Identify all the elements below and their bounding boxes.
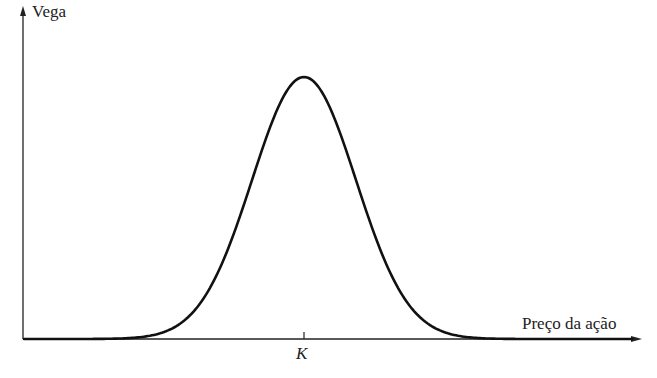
vega-curve [24, 77, 632, 339]
k-tick-label: K [296, 344, 307, 364]
y-axis-label: Vega [32, 2, 66, 22]
x-axis-label: Preço da ação [522, 314, 616, 334]
y-axis-arrow-icon [20, 6, 26, 16]
